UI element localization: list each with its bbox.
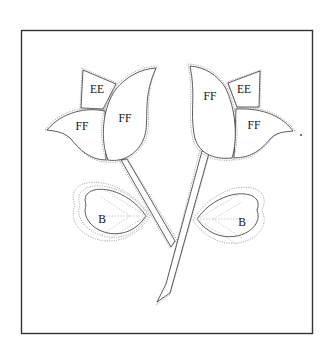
right-tulip: FF EE FF (188, 64, 295, 160)
right-tulip-front-petal-label: FF (204, 90, 217, 102)
left-leaf-label: B (98, 213, 106, 225)
stray-mark (300, 134, 302, 136)
right-leaf-label: B (238, 216, 246, 228)
left-tulip: EE FF FF (45, 66, 157, 162)
left-tulip-back-petal-label: EE (90, 83, 104, 95)
right-tulip-back-petal-label: EE (237, 83, 251, 95)
left-leaf: B (73, 182, 150, 242)
left-tulip-front-petal-label: FF (119, 112, 132, 124)
applique-pattern: B B EE FF FF FF EE FF (0, 0, 331, 355)
right-leaf: B (193, 187, 264, 245)
left-tulip-side-petal-label: FF (76, 120, 89, 132)
right-tulip-side-petal-label: FF (248, 119, 261, 131)
